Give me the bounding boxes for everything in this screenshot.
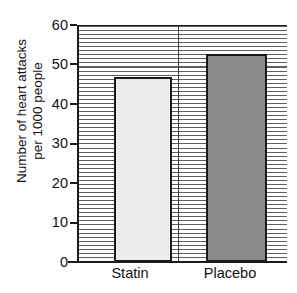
y-tick-mark-60 <box>70 24 77 26</box>
bar-chart: Number of heart attacks per 1000 people … <box>0 0 297 293</box>
bar-statin[interactable] <box>114 77 172 262</box>
y-tick-mark-50 <box>70 63 77 65</box>
x-tick-label-statin: Statin <box>85 266 175 281</box>
y-tick-label-20: 20 <box>42 176 68 191</box>
y-tick-mark-10 <box>70 222 77 224</box>
y-tick-mark-20 <box>70 182 77 184</box>
y-tick-label-40: 40 <box>42 97 68 112</box>
x-axis-line <box>68 261 287 263</box>
bar-placebo[interactable] <box>206 54 267 262</box>
plot-area <box>77 25 287 262</box>
category-divider <box>178 26 179 262</box>
y-tick-mark-30 <box>70 143 77 145</box>
y-tick-mark-40 <box>70 103 77 105</box>
y-tick-label-30: 30 <box>42 136 68 151</box>
y-tick-label-60: 60 <box>42 18 68 33</box>
x-tick-label-placebo: Placebo <box>180 266 280 281</box>
y-tick-label-0: 0 <box>42 255 68 270</box>
y-axis-tick-labels: 60 50 40 30 20 10 0 <box>42 0 68 293</box>
y-tick-label-50: 50 <box>42 57 68 72</box>
y-tick-label-10: 10 <box>42 215 68 230</box>
